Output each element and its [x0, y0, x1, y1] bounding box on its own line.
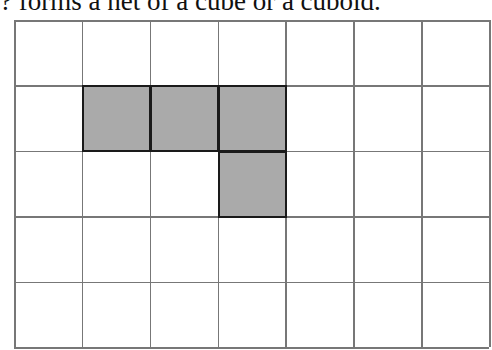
question-caption: ? forms a net of a cube or a cuboid.: [0, 0, 381, 16]
grid-vertical-line: [353, 20, 355, 347]
square-grid: [14, 20, 489, 347]
grid-horizontal-line: [14, 282, 489, 284]
grid-horizontal-line: [14, 347, 489, 349]
shaded-square: [150, 85, 219, 152]
grid-vertical-line: [14, 20, 16, 347]
shaded-square: [218, 151, 287, 218]
shaded-square: [218, 85, 287, 152]
grid-vertical-line: [82, 20, 84, 347]
shaded-square: [82, 85, 151, 152]
grid-vertical-line: [150, 20, 152, 347]
grid-vertical-line: [421, 20, 423, 347]
grid-vertical-line: [489, 20, 491, 347]
grid-horizontal-line: [14, 20, 489, 22]
